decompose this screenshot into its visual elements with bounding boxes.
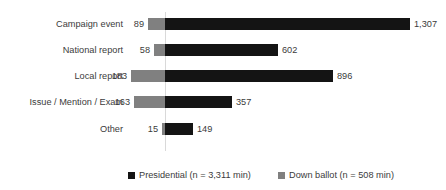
chart-row: Campaign event891,307 [0, 11, 446, 37]
down-ballot-value-label: 163 [0, 89, 130, 115]
legend-item[interactable]: Down ballot (n = 508 min) [278, 166, 394, 184]
chart-row: National report58602 [0, 37, 446, 63]
bar-presidential [165, 96, 232, 108]
bar-presidential [165, 70, 333, 82]
bar-chart: Campaign event891,307National report5860… [0, 0, 446, 190]
presidential-value-label: 602 [282, 37, 297, 63]
chart-row: Other15149 [0, 116, 446, 142]
plot-area: Campaign event891,307National report5860… [0, 0, 446, 152]
down-ballot-value-label: 58 [0, 37, 150, 63]
chart-row: Local report183896 [0, 63, 446, 89]
chart-row: Issue / Mention / Exam163357 [0, 89, 446, 115]
bar-presidential [165, 44, 278, 56]
bar-down-ballot [154, 44, 165, 56]
down-ballot-value-label: 183 [0, 63, 127, 89]
legend-item[interactable]: Presidential (n = 3,311 min) [128, 166, 251, 184]
legend-swatch-icon [278, 172, 285, 179]
chart-legend: Presidential (n = 3,311 min)Down ballot … [0, 166, 446, 184]
presidential-value-label: 149 [197, 116, 212, 142]
legend-swatch-icon [128, 172, 135, 179]
down-ballot-value-label: 89 [0, 11, 144, 37]
bar-presidential [165, 18, 410, 30]
legend-label: Presidential (n = 3,311 min) [139, 170, 251, 180]
bar-down-ballot [131, 70, 165, 82]
bar-presidential [165, 123, 193, 135]
presidential-value-label: 1,307 [414, 11, 437, 37]
bar-down-ballot [148, 18, 165, 30]
bar-down-ballot [134, 96, 165, 108]
presidential-value-label: 357 [236, 89, 251, 115]
presidential-value-label: 896 [337, 63, 352, 89]
legend-label: Down ballot (n = 508 min) [289, 170, 394, 180]
down-ballot-value-label: 15 [0, 116, 158, 142]
